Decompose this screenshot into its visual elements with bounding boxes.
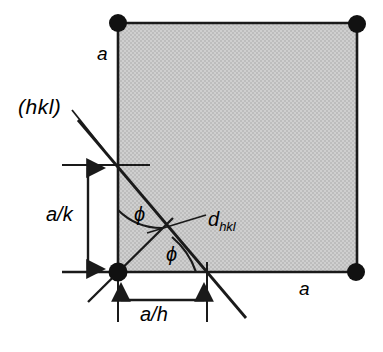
crystal-plane-diagram xyxy=(0,0,383,352)
label-lattice-parameter-bottom: a xyxy=(299,278,310,300)
label-intercept-ah: a/h xyxy=(140,303,168,326)
label-angle-phi-upper: ϕ xyxy=(134,203,145,226)
dhkl-subscript: hkl xyxy=(219,219,236,234)
unit-cell-area xyxy=(118,23,357,272)
label-lattice-parameter-left: a xyxy=(97,43,108,65)
label-plane-index: (hkl) xyxy=(18,95,61,119)
label-angle-phi-lower: ϕ xyxy=(166,243,177,266)
hkl-leader-line xyxy=(72,110,104,150)
label-intercept-ak: a/k xyxy=(46,203,73,226)
lattice-point-top-left xyxy=(109,14,127,32)
lattice-point-origin xyxy=(109,263,128,282)
lattice-point-top-right xyxy=(348,15,366,33)
lattice-point-bottom-right xyxy=(347,263,365,281)
dhkl-base: d xyxy=(208,208,219,230)
label-interplanar-spacing: dhkl xyxy=(208,208,236,234)
